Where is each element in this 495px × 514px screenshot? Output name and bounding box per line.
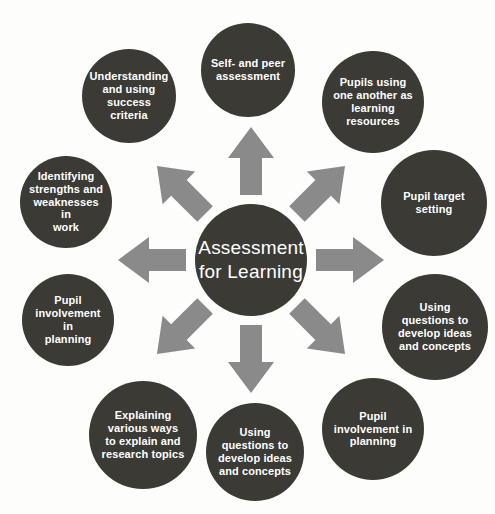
node-explaining-various-ways: Explaining various ways to explain and r… bbox=[89, 381, 197, 489]
arrow-down-left bbox=[141, 290, 222, 371]
node-self-and-peer-assessment: Self- and peer assessment bbox=[201, 23, 295, 117]
node-label: Using questions to develop ideas and con… bbox=[211, 426, 299, 478]
node-label: Pupil involvement in planning bbox=[22, 294, 114, 346]
node-understanding-success-criteria: Understanding and using success criteria bbox=[82, 49, 176, 143]
node-pupil-involvement-left: Pupil involvement in planning bbox=[22, 274, 114, 366]
node-label: Identifying strengths and weaknesses in … bbox=[20, 170, 112, 235]
node-pupil-target-setting: Pupil target setting bbox=[381, 150, 487, 256]
node-using-questions-bottom: Using questions to develop ideas and con… bbox=[206, 403, 304, 501]
node-pupils-using-one-another: Pupils using one another as learning res… bbox=[322, 51, 424, 153]
node-identifying-strengths-weaknesses: Identifying strengths and weaknesses in … bbox=[20, 156, 112, 248]
node-label: Pupil target setting bbox=[396, 190, 472, 216]
node-label: Understanding and using success criteria bbox=[82, 70, 176, 122]
arrow-down bbox=[228, 325, 274, 393]
arrow-up-right bbox=[281, 150, 362, 231]
arrow-left bbox=[118, 237, 186, 283]
node-label: Using questions to develop ideas and con… bbox=[391, 301, 479, 353]
arrow-up bbox=[228, 127, 274, 195]
assessment-for-learning-diagram: Assessment for Learning Self- and peer a… bbox=[0, 0, 495, 514]
node-label: Self- and peer assessment bbox=[204, 57, 292, 83]
node-pupil-involvement-bottom-right: Pupil involvement in planning bbox=[322, 378, 424, 480]
node-using-questions-right: Using questions to develop ideas and con… bbox=[382, 274, 488, 380]
center-node-label: Assessment for Learning bbox=[191, 236, 310, 284]
node-label: Pupils using one another as learning res… bbox=[326, 76, 420, 128]
center-node-assessment-for-learning: Assessment for Learning bbox=[195, 204, 307, 316]
node-label: Explaining various ways to explain and r… bbox=[95, 409, 192, 461]
node-label: Pupil involvement in planning bbox=[327, 410, 419, 449]
arrow-up-left bbox=[141, 150, 222, 231]
arrow-down-right bbox=[281, 290, 362, 371]
arrow-right bbox=[316, 237, 384, 283]
